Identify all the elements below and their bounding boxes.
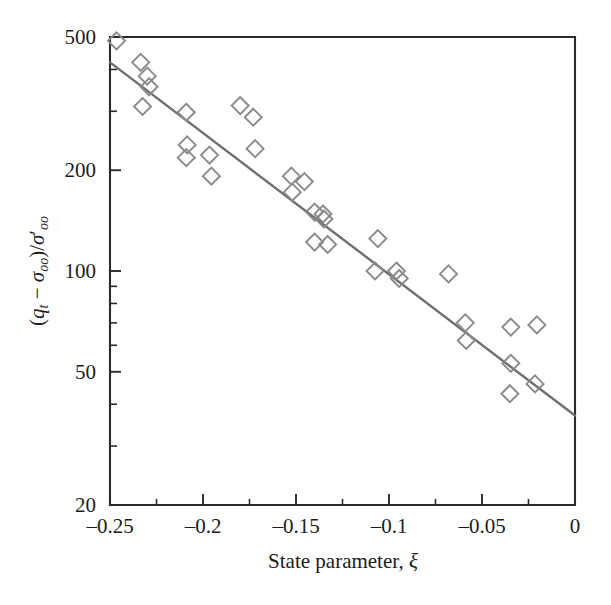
x-tick-label: –0.25 bbox=[85, 514, 133, 538]
x-tick-label: –0.05 bbox=[457, 514, 505, 538]
y-axis-ticks bbox=[110, 37, 121, 505]
data-markers bbox=[108, 32, 545, 402]
data-point-marker bbox=[528, 316, 545, 333]
data-point-marker bbox=[440, 265, 457, 282]
y-tick-label: 20 bbox=[75, 493, 96, 517]
x-tick-label: –0.1 bbox=[370, 514, 408, 538]
chart-canvas: –0.25–0.2–0.15–0.1–0.050 5002001005020 S… bbox=[0, 0, 611, 605]
data-point-marker bbox=[245, 109, 262, 126]
x-axis-ticks bbox=[110, 494, 575, 505]
y-axis-title: (qt − σoo)/σ′oo bbox=[25, 216, 51, 326]
data-point-marker bbox=[458, 332, 475, 349]
data-point-marker bbox=[178, 104, 195, 121]
y-tick-label: 50 bbox=[75, 360, 96, 384]
data-point-marker bbox=[201, 147, 218, 164]
y-tick-label: 200 bbox=[65, 158, 97, 182]
x-tick-label: 0 bbox=[570, 514, 581, 538]
data-point-marker bbox=[134, 98, 151, 115]
y-tick-label: 500 bbox=[65, 25, 97, 49]
x-tick-label: –0.2 bbox=[184, 514, 222, 538]
x-tick-label: –0.15 bbox=[271, 514, 319, 538]
plot-frame bbox=[110, 37, 575, 505]
x-axis-tick-labels: –0.25–0.2–0.15–0.1–0.050 bbox=[85, 514, 580, 538]
data-point-marker bbox=[284, 184, 301, 201]
data-point-marker bbox=[501, 385, 518, 402]
data-point-marker bbox=[203, 168, 220, 185]
data-point-marker bbox=[369, 230, 386, 247]
data-point-marker bbox=[502, 319, 519, 336]
y-axis-tick-labels: 5002001005020 bbox=[65, 25, 97, 517]
figure-container: –0.25–0.2–0.15–0.1–0.050 5002001005020 S… bbox=[0, 0, 611, 605]
data-point-marker bbox=[232, 97, 249, 114]
y-tick-label: 100 bbox=[65, 259, 97, 283]
data-point-marker bbox=[388, 263, 405, 280]
svg-text:(qt − σoo)/σ′oo: (qt − σoo)/σ′oo bbox=[25, 216, 51, 326]
data-point-marker bbox=[247, 140, 264, 157]
x-axis-title: State parameter, ξ bbox=[268, 549, 418, 573]
